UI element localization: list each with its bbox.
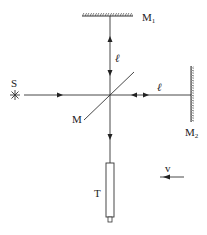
mirror-m2-label: M2 [185,126,199,140]
arm-length-horizontal-label: ℓ [157,81,162,93]
telescope-label: T [94,187,101,199]
mirror-m1-label: M1 [142,11,156,25]
arrow-down-to-telescope-icon [108,134,113,140]
arrow-right-icon [57,93,63,98]
velocity-arrow-icon [163,175,170,180]
telescope [106,163,114,222]
source-star-icon [10,90,20,100]
arrow-right-to-m2-icon [143,93,149,98]
arrow-up-icon [108,36,113,42]
arrow-down-icon [108,70,113,76]
mirror-m1 [82,13,133,16]
arrow-left-icon [131,93,137,98]
beam-splitter [84,72,134,120]
interferometer-diagram: M1 M2 ℓ ℓ M S T v [0,0,207,235]
beam-splitter-label: M [72,113,82,125]
source-label: S [11,77,17,89]
mirror-m2 [191,66,194,122]
velocity-label: v [165,162,171,174]
arm-length-vertical-label: ℓ [115,52,120,64]
